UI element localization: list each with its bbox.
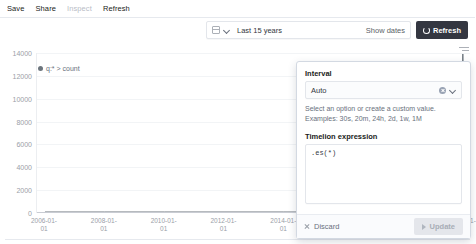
discard-button-label: Discard	[314, 222, 339, 231]
interval-help-text: Select an option or create a custom valu…	[305, 104, 462, 123]
y-axis-labels: 02000400060008000100001200014000	[5, 53, 35, 219]
y-axis-tick: 0	[28, 210, 32, 217]
refresh-icon	[423, 27, 430, 34]
legend-series-label: q:* > count	[46, 65, 80, 72]
calendar-icon	[212, 26, 220, 34]
update-button-label: Update	[430, 222, 455, 231]
y-axis-tick: 6000	[16, 141, 32, 148]
menu-item-save[interactable]: Save	[7, 4, 25, 13]
chevron-down-icon[interactable]	[449, 87, 456, 94]
menu-item-refresh[interactable]: Refresh	[103, 4, 130, 13]
y-axis-tick: 10000	[13, 95, 32, 102]
play-icon	[422, 224, 426, 230]
top-menu-bar: Save Share Inspect Refresh	[0, 0, 475, 18]
panel-divider	[5, 239, 470, 240]
y-axis-tick: 12000	[13, 72, 32, 79]
close-icon	[304, 224, 310, 230]
popover-body: Interval Auto Select an option or create…	[297, 62, 470, 214]
y-axis-tick: 4000	[16, 164, 32, 171]
date-picker-group[interactable]: Last 15 years Show dates	[206, 21, 411, 39]
x-axis-tick: 2006-01-01	[31, 217, 57, 233]
x-axis-tick: 2010-01-01	[151, 217, 177, 233]
legend-marker-icon	[38, 66, 43, 71]
update-button[interactable]: Update	[414, 218, 463, 235]
y-axis-tick: 8000	[16, 118, 32, 125]
menu-item-inspect[interactable]: Inspect	[67, 4, 92, 13]
interval-combobox[interactable]: Auto	[305, 81, 462, 99]
refresh-button-label: Refresh	[433, 26, 461, 35]
date-range-label[interactable]: Last 15 years	[237, 26, 282, 35]
gridline	[37, 53, 470, 54]
interval-field-label: Interval	[305, 69, 462, 78]
x-axis-tick: 2008-01-01	[91, 217, 117, 233]
x-axis-tick: 2012-01-01	[210, 217, 236, 233]
y-axis-tick: 14000	[13, 50, 32, 57]
clear-circle-icon[interactable]	[439, 87, 446, 94]
chevron-down-icon[interactable]	[223, 27, 230, 34]
refresh-button[interactable]: Refresh	[416, 21, 468, 39]
popover-footer: Discard Update	[297, 214, 470, 238]
chart-legend[interactable]: q:* > count	[38, 65, 80, 72]
y-axis-tick: 2000	[16, 187, 32, 194]
show-dates-button[interactable]: Show dates	[366, 26, 405, 35]
interval-settings-popover: Interval Auto Select an option or create…	[296, 61, 471, 239]
menu-item-share[interactable]: Share	[36, 4, 57, 13]
discard-button[interactable]: Discard	[304, 222, 339, 231]
expression-field-label: Timelion expression	[305, 132, 462, 141]
x-axis-tick: 2014-01-01	[270, 217, 296, 233]
interval-selected-value: Auto	[311, 86, 326, 95]
query-date-bar: Last 15 years Show dates Refresh	[206, 19, 468, 41]
expression-input[interactable]: .es(*)	[305, 144, 462, 204]
